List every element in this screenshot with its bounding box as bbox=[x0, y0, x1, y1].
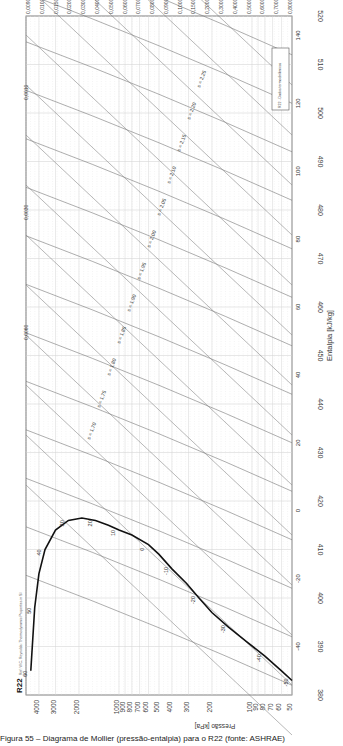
specific-volume-label: 0,0700 bbox=[135, 0, 141, 14]
pressure-tick-label: 90 bbox=[252, 703, 259, 711]
superheat-isotherm-label: 40 bbox=[295, 371, 301, 378]
pressure-tick-label: 600 bbox=[142, 701, 149, 712]
pressure-tick-label: 300 bbox=[183, 701, 190, 712]
pressure-tick-label: 100 bbox=[246, 701, 253, 712]
inline-volume-label: 0,0030 bbox=[23, 204, 29, 220]
isotherm-label: 50 bbox=[26, 608, 32, 614]
inline-volume-label: 0,0060 bbox=[23, 324, 29, 340]
refrigerant-title: R22 bbox=[15, 678, 24, 693]
enthalpy-tick-label: 380 bbox=[317, 689, 324, 701]
specific-volume-label: 0,7000 bbox=[273, 0, 279, 14]
pressure-tick-label: 3000 bbox=[50, 699, 57, 714]
enthalpy-tick-label: 480 bbox=[317, 204, 324, 216]
enthalpy-tick-label: 410 bbox=[317, 544, 324, 556]
isotherm-label: 30 bbox=[59, 520, 65, 526]
enthalpy-tick-label: 400 bbox=[317, 592, 324, 604]
isotherm-label: -50 bbox=[283, 678, 289, 686]
specific-volume-label: 0,1000 bbox=[177, 0, 183, 14]
superheat-isotherm-label: 0 bbox=[295, 508, 301, 512]
enthalpy-tick-label: 520 bbox=[317, 10, 324, 22]
specific-volume-label: 0,2000 bbox=[204, 0, 210, 14]
superheat-isotherm-label: 120 bbox=[295, 98, 301, 109]
enthalpy-tick-label: 510 bbox=[317, 59, 324, 71]
specific-volume-label: 0,0500 bbox=[108, 0, 114, 14]
enthalpy-tick-label: 430 bbox=[317, 447, 324, 459]
specific-volume-label: 0,0300 bbox=[80, 0, 86, 14]
superheat-isotherm-label: -40 bbox=[295, 642, 301, 651]
superheat-isotherm-label: 140 bbox=[295, 30, 301, 41]
legend-text: R22 - Dados termodinâmicos bbox=[278, 62, 282, 108]
inline-volume-label: 0,0010 bbox=[23, 84, 29, 100]
specific-volume-label: 0,8000 bbox=[287, 0, 293, 14]
enthalpy-tick-label: 470 bbox=[317, 253, 324, 265]
pressure-tick-label: 800 bbox=[126, 701, 133, 712]
enthalpy-tick-label: 440 bbox=[317, 398, 324, 410]
pressure-tick-label: 4000 bbox=[33, 699, 40, 714]
pressure-tick-label: 50 bbox=[286, 703, 293, 711]
superheat-isotherm-label: 60 bbox=[295, 303, 301, 310]
specific-volume-label: 0,0900 bbox=[163, 0, 169, 14]
isotherm-label: -20 bbox=[190, 596, 196, 604]
pressure-tick-label: 700 bbox=[134, 701, 141, 712]
isotherm-label: -10 bbox=[163, 567, 169, 575]
specific-volume-label: 0,0400 bbox=[94, 0, 100, 14]
specific-volume-label: 0,0200 bbox=[66, 0, 72, 14]
enthalpy-tick-label: 460 bbox=[317, 301, 324, 313]
specific-volume-label: 0,6000 bbox=[259, 0, 265, 14]
pressure-tick-label: 2000 bbox=[73, 699, 80, 714]
isotherm-label: -30 bbox=[220, 625, 226, 633]
superheat-isotherm-label: -20 bbox=[295, 574, 301, 583]
x-axis-title: Entalpia [kJ/kg] bbox=[325, 310, 334, 361]
specific-volume-label: 0,0100 bbox=[39, 0, 45, 14]
pressure-tick-label: 60 bbox=[275, 703, 282, 711]
pressure-tick-label: 200 bbox=[206, 701, 213, 712]
pressure-tick-label: 1000 bbox=[113, 699, 120, 714]
enthalpy-tick-label: 490 bbox=[317, 156, 324, 168]
superheat-isotherm-label: 80 bbox=[295, 235, 301, 242]
pressure-tick-label: 400 bbox=[166, 701, 173, 712]
pressure-tick-label: 900 bbox=[119, 701, 126, 712]
specific-volume-label: 0,0090 bbox=[25, 0, 31, 14]
pressure-tick-label: 70 bbox=[267, 703, 274, 711]
isotherm-label: 0 bbox=[139, 548, 145, 551]
isotherm-label: 10 bbox=[110, 530, 116, 536]
enthalpy-tick-label: 450 bbox=[317, 350, 324, 362]
specific-volume-label: 0,0150 bbox=[53, 0, 59, 14]
enthalpy-tick-label: 390 bbox=[317, 641, 324, 653]
isotherm-label: 20 bbox=[87, 520, 93, 526]
y-axis-title: Pressão [kPa] bbox=[195, 722, 236, 730]
pressure-tick-label: 500 bbox=[153, 701, 160, 712]
enthalpy-tick-label: 420 bbox=[317, 495, 324, 507]
specific-volume-label: 0,0600 bbox=[122, 0, 128, 14]
figure-caption: Figura 55 – Diagrama de Mollier (pressão… bbox=[0, 734, 343, 743]
isotherm-label: 40 bbox=[36, 549, 42, 555]
specific-volume-label: 0,1500 bbox=[190, 0, 196, 14]
specific-volume-label: 0,4000 bbox=[232, 0, 238, 14]
specific-volume-label: 0,3000 bbox=[218, 0, 224, 14]
chart-subtitle: Ref: W.C. Reynolds: Thermodynamic Proper… bbox=[19, 593, 23, 675]
specific-volume-label: 0,5000 bbox=[246, 0, 252, 14]
isotherm-label: -40 bbox=[256, 654, 262, 662]
enthalpy-tick-label: 500 bbox=[317, 107, 324, 119]
superheat-isotherm-label: 100 bbox=[295, 166, 301, 177]
superheat-isotherm-label: 20 bbox=[295, 439, 301, 446]
specific-volume-label: 0,0800 bbox=[149, 0, 155, 14]
